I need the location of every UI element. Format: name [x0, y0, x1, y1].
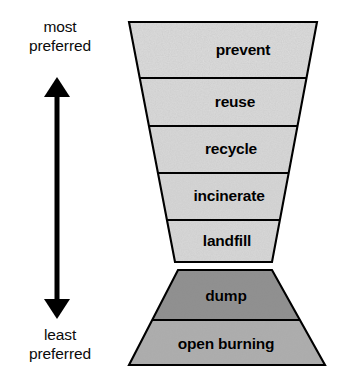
double-headed-vertical-arrow: [44, 77, 70, 319]
waste-hierarchy-figure: most preferred least preferred prevent r…: [0, 0, 343, 385]
arrow-head-up: [44, 77, 70, 97]
band-label-open-burning: open burning: [178, 336, 275, 352]
band-label-prevent: prevent: [216, 42, 271, 58]
arrow-head-down: [44, 299, 70, 319]
band-label-dump: dump: [205, 288, 246, 304]
band-label-reuse: reuse: [215, 94, 255, 110]
band-label-incinerate: incinerate: [193, 188, 264, 204]
arrow-shaft: [55, 86, 60, 310]
band-label-recycle: recycle: [205, 141, 257, 157]
band-label-landfill: landfill: [203, 233, 251, 249]
axis-label-most-preferred: most preferred: [0, 17, 120, 55]
axis-label-least-preferred: least preferred: [0, 325, 120, 363]
